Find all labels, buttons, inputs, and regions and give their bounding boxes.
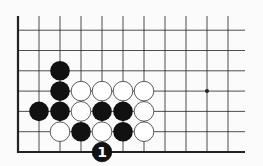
white-stone <box>113 81 133 101</box>
move-number-label: 1 <box>97 144 107 160</box>
black-stone <box>50 102 70 122</box>
black-stone <box>92 102 112 122</box>
black-stone <box>29 102 49 122</box>
black-stone <box>50 81 70 101</box>
white-stone <box>71 102 91 122</box>
white-stone <box>134 122 154 142</box>
white-stone <box>134 81 154 101</box>
black-stone <box>50 61 70 81</box>
white-stone <box>134 102 154 122</box>
black-stone <box>71 122 91 142</box>
white-stone <box>71 81 91 101</box>
black-stone <box>113 102 133 122</box>
white-stone <box>50 122 70 142</box>
go-board: 1 <box>0 0 263 166</box>
black-stone <box>113 122 133 142</box>
white-stone <box>92 81 112 101</box>
white-stone <box>92 122 112 142</box>
star-point <box>205 89 209 93</box>
